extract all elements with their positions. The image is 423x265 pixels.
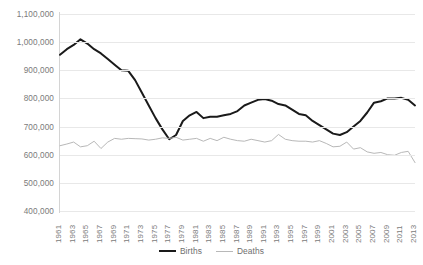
x-tick-label: 1979	[177, 225, 186, 243]
line-chart: 1,100,0001,000,000900,000800,000700,0006…	[0, 0, 423, 265]
x-tick-label: 1965	[81, 225, 90, 243]
x-tick-label: 2013	[409, 225, 418, 243]
x-tick-label: 1989	[245, 225, 254, 243]
y-tick-label: 1,000,000	[17, 38, 54, 47]
x-tick-label: 1991	[259, 225, 268, 243]
x-tick-label: 1967	[95, 225, 104, 243]
y-tick-label: 400,000	[24, 207, 54, 216]
x-tick-label: 2001	[327, 225, 336, 243]
x-tick-label: 1961	[54, 225, 63, 243]
x-axis: 1961196319651967196919711973197519771979…	[60, 213, 415, 243]
y-tick-label: 600,000	[24, 150, 54, 159]
x-tick-label: 1973	[136, 225, 145, 243]
gridline	[60, 183, 415, 184]
x-tick-label: 1983	[204, 225, 213, 243]
gridline	[60, 98, 415, 99]
legend-label-births: Births	[180, 246, 202, 256]
legend-swatch-deaths-icon	[216, 251, 233, 252]
x-tick-label: 1997	[300, 225, 309, 243]
x-tick-label: 1985	[218, 225, 227, 243]
y-tick-label: 500,000	[24, 178, 54, 187]
x-tick-label: 1981	[191, 225, 200, 243]
x-tick-label: 1999	[313, 225, 322, 243]
x-tick-label: 1971	[122, 225, 131, 243]
x-tick-label: 2007	[368, 225, 377, 243]
series-lines	[60, 14, 415, 211]
x-tick-label: 1987	[232, 225, 241, 243]
legend-label-deaths: Deaths	[237, 246, 264, 256]
x-tick-label: 1969	[109, 225, 118, 243]
x-tick-label: 1975	[150, 225, 159, 243]
series-line-deaths	[60, 134, 415, 162]
y-tick-label: 900,000	[24, 66, 54, 75]
legend-item-births[interactable]: Births	[159, 246, 202, 256]
x-tick-label: 2011	[395, 225, 404, 243]
series-line-births	[60, 39, 415, 139]
x-tick-label: 1995	[286, 225, 295, 243]
x-tick-label: 2005	[354, 225, 363, 243]
gridline	[60, 155, 415, 156]
gridline	[60, 70, 415, 71]
legend-item-deaths[interactable]: Deaths	[216, 246, 264, 256]
x-tick-label: 2003	[341, 225, 350, 243]
y-tick-label: 1,100,000	[17, 10, 54, 19]
gridline	[60, 127, 415, 128]
y-axis: 1,100,0001,000,000900,000800,000700,0006…	[0, 0, 57, 225]
y-tick-label: 700,000	[24, 122, 54, 131]
gridline	[60, 42, 415, 43]
gridline	[60, 14, 415, 15]
x-tick-label: 1977	[163, 225, 172, 243]
legend: Births Deaths	[0, 246, 423, 256]
gridline	[60, 211, 415, 212]
y-tick-label: 800,000	[24, 94, 54, 103]
legend-swatch-births-icon	[159, 250, 176, 252]
x-tick-label: 1993	[272, 225, 281, 243]
x-tick-label: 1963	[68, 225, 77, 243]
plot-area	[60, 14, 415, 211]
x-tick-label: 2009	[382, 225, 391, 243]
